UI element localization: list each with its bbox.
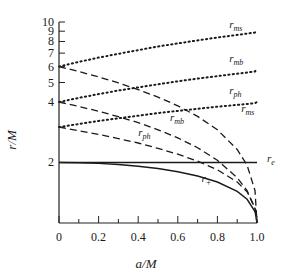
y-tick-label: 10 [42,15,54,29]
y-tick-label: 4 [48,95,54,109]
x-tick-label: 0.8 [210,230,225,244]
curve-label: rph [138,126,150,141]
curve-r-ms-dashed [59,67,257,223]
curve-label: rms [229,18,242,33]
x-tick-label: 0.2 [91,230,106,244]
y-tick-label: 2 [48,155,54,169]
curve-r-ph-dashed [59,127,257,223]
x-tick-label: 0 [56,230,62,244]
x-tick-label: 0.4 [131,230,146,244]
curve-label: re [267,152,275,167]
y-axis-title: r/M [4,129,19,150]
x-tick-label: 0.6 [170,230,185,244]
curve-r-plus-solid [59,163,257,224]
y-tick-label: 6 [48,60,54,74]
curve-r-ph-dotted [59,102,257,127]
curve-label: rmb [170,111,184,126]
curve-label: rmb [229,52,243,67]
chart: 00.20.40.60.81.0245678910 rmsrmbrphrmsrm… [0,0,281,280]
curve-label: r+ [202,172,212,187]
x-tick-label: 1.0 [250,230,265,244]
curve-r-ms-dotted [59,31,257,66]
x-axis-title: a/M [136,256,158,271]
y-tick-label: 5 [48,76,54,90]
plot-area [59,31,257,223]
curve-label: rph [229,84,241,99]
